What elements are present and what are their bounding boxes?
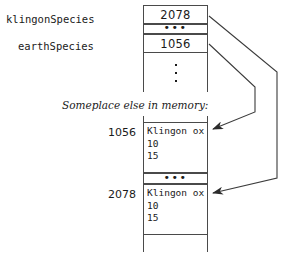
heap-record-1056-line-1: 10 <box>147 138 207 151</box>
heap-record-2078-line-0: Klingon ox <box>147 187 207 200</box>
stack-cell-earthSpecies: 1056 <box>143 34 208 53</box>
pointer-earthSpecies-to-1056 <box>209 44 255 129</box>
ellipsis-dot <box>175 80 177 82</box>
heap-record-1056: Klingon ox 10 15 <box>143 122 208 173</box>
heap-record-1056-line-2: 15 <box>147 150 207 163</box>
stack-cell-klingonSpecies-value: 2078 <box>160 8 190 22</box>
variable-label-earthSpecies: earthSpecies <box>18 40 94 52</box>
heap-record-2078-line-2: 15 <box>147 212 207 225</box>
heap-address-1056: 1056 <box>88 126 136 139</box>
stack-vertical-ellipsis <box>143 53 208 92</box>
variable-label-klingonSpecies: klingonSpecies <box>6 13 95 25</box>
heap-address-2078: 2078 <box>88 188 136 201</box>
stack-gap-marker: ••• <box>164 25 188 31</box>
heap-record-2078: Klingon ox 10 15 <box>143 184 208 235</box>
ellipsis-dot <box>175 72 177 74</box>
heap-record-1056-line-0: Klingon ox <box>147 125 207 138</box>
heap-record-2078-line-1: 10 <box>147 200 207 213</box>
pointer-klingonSpecies-to-2078 <box>209 16 277 193</box>
heap-wall-bottom <box>143 235 208 252</box>
ellipsis-dot <box>175 64 177 66</box>
stack-cell-earthSpecies-value: 1056 <box>160 37 190 51</box>
heap-gap-marker: ••• <box>164 175 188 181</box>
stack-gap-row: ••• <box>143 24 208 34</box>
heap-caption: Someplace else in memory: <box>62 99 208 111</box>
memory-diagram: klingonSpecies 2078 ••• earthSpecies 105… <box>0 0 289 257</box>
heap-gap-row: ••• <box>143 173 208 184</box>
